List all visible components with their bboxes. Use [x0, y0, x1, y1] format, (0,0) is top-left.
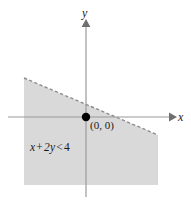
inequality-graph-figure: y x (0, 0) x+2y<4 — [0, 0, 191, 207]
inequality-relation-sign: < — [55, 141, 64, 153]
shaded-solution-region — [24, 78, 158, 185]
origin-point-dot — [82, 113, 90, 121]
inequality-term-y: 2y — [44, 141, 55, 153]
inequality-label: x+2y<4 — [30, 142, 70, 154]
y-axis-arrowhead — [82, 19, 91, 27]
x-axis-arrowhead — [169, 113, 177, 122]
graph-canvas — [0, 0, 191, 207]
x-axis-label: x — [178, 111, 183, 123]
inequality-plus-sign: + — [35, 141, 44, 153]
inequality-constant: 4 — [64, 141, 70, 153]
origin-coordinate-label: (0, 0) — [90, 120, 114, 131]
y-axis-label: y — [82, 7, 87, 19]
